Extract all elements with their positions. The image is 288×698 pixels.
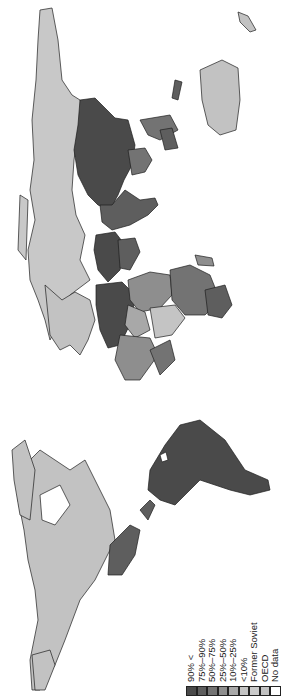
legend-item: 90% <: [186, 590, 197, 696]
legend-swatch: [239, 686, 250, 696]
legend-swatch: [270, 686, 281, 696]
region-arabia: [118, 238, 140, 270]
legend-swatch: [260, 686, 271, 696]
legend-swatch: [207, 686, 218, 696]
region-alaska: [32, 650, 55, 690]
legend-label: Former Soviet: [249, 622, 260, 682]
legend-item: 50%–75%: [207, 590, 218, 696]
region-southeast-asia: [128, 148, 152, 175]
region-west-africa: [115, 335, 158, 380]
region-new-zealand: [238, 12, 256, 32]
region-south-america: [148, 420, 270, 505]
region-central-america: [140, 500, 155, 520]
legend-items: 90% < 75%–90% 50%–75% 25%–50% 10%–25% <1…: [186, 590, 286, 696]
legend-swatch: [228, 686, 239, 696]
region-madagascar: [195, 255, 214, 266]
legend-swatch: [186, 686, 197, 696]
legend-item: 10%–25%: [228, 590, 239, 696]
legend-label: 10%–25%: [228, 639, 239, 682]
legend-label: 50%–75%: [207, 639, 218, 682]
legend-item: No data: [270, 590, 281, 696]
region-japan: [172, 80, 182, 100]
legend-label: No data: [270, 649, 281, 682]
region-north-coast: [18, 195, 28, 260]
legend-label: 90% <: [186, 655, 197, 682]
region-arctic-islands: [12, 440, 35, 520]
legend-swatch: [249, 686, 260, 696]
map-legend: 90% < 75%–90% 50%–75% 25%–50% 10%–25% <1…: [186, 590, 286, 696]
region-europe-oecd: [45, 285, 95, 355]
region-southern-africa: [150, 305, 185, 338]
region-horn-africa: [205, 285, 232, 318]
legend-swatch: [218, 686, 229, 696]
legend-item: Former Soviet: [249, 590, 260, 696]
legend-swatch: [197, 686, 208, 696]
region-australia: [200, 60, 240, 135]
